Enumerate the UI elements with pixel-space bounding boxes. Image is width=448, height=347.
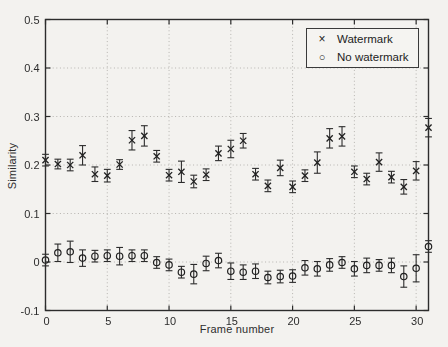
legend: × Watermark ○ No watermark [306, 28, 419, 68]
y-tick-label: 0.4 [24, 62, 39, 74]
y-tick-label: 0.5 [24, 14, 39, 26]
y-tick-label: 0.1 [24, 208, 39, 220]
y-tick-label: 0 [33, 256, 39, 268]
x-tick-label: 20 [287, 315, 299, 327]
figure-scan: 051015202530-0.100.10.20.30.40.5 Similar… [0, 0, 448, 347]
legend-label-watermark: Watermark [337, 33, 393, 45]
legend-item-no-watermark: ○ No watermark [307, 49, 418, 65]
x-marker-icon: × [307, 32, 337, 46]
legend-label-no-watermark: No watermark [337, 51, 409, 63]
y-axis-label: Similarity [6, 136, 18, 196]
x-tick-label: 30 [411, 315, 423, 327]
x-axis-label: Frame number [187, 323, 287, 335]
x-tick-label: 10 [164, 315, 176, 327]
circle-marker-icon: ○ [307, 50, 337, 64]
legend-item-watermark: × Watermark [307, 31, 418, 47]
x-tick-label: 0 [43, 315, 49, 327]
y-tick-label: 0.3 [24, 111, 39, 123]
x-tick-label: 25 [349, 315, 361, 327]
x-tick-label: 5 [105, 315, 111, 327]
y-tick-label: -0.1 [21, 305, 40, 317]
y-tick-label: 0.2 [24, 159, 39, 171]
